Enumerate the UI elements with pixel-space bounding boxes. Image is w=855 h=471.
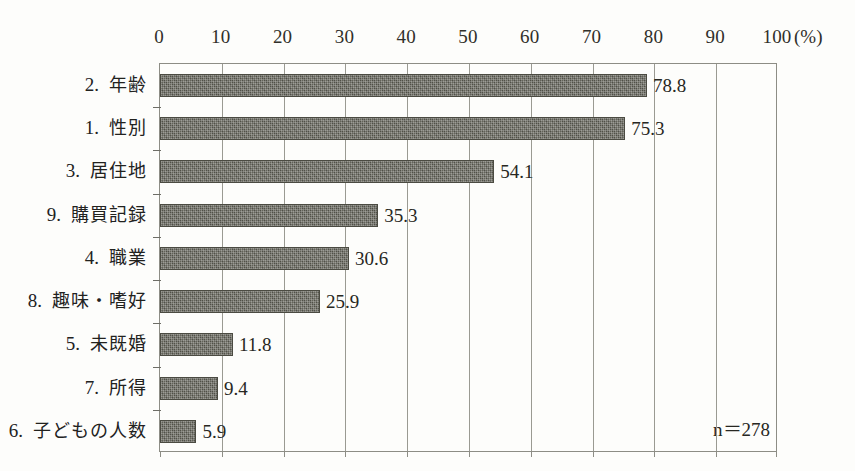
- category-text: 職業: [109, 247, 147, 268]
- x-axis-tick-20: 20: [273, 26, 292, 48]
- category-number: 5.: [66, 333, 80, 354]
- x-axis-tick-70: 70: [582, 26, 601, 48]
- category-text: 購買記録: [71, 204, 147, 225]
- bar-chart: 0102030405060708090100 (%) 2. 年齢1. 性別3. …: [0, 0, 855, 471]
- bar-row: 54.1: [160, 150, 776, 193]
- category-number: 7.: [85, 377, 99, 398]
- x-axis-tick-50: 50: [458, 26, 477, 48]
- category-text: 居住地: [90, 160, 147, 181]
- plot-area: n＝278 78.875.354.135.330.625.911.89.45.9: [159, 63, 777, 452]
- x-axis-tick-60: 60: [520, 26, 539, 48]
- category-label: 4. 職業: [85, 236, 147, 279]
- category-axis-tick-mark: [153, 150, 161, 151]
- bar: [160, 290, 320, 313]
- category-axis-tick-mark: [153, 410, 161, 411]
- category-number: 2.: [85, 74, 99, 95]
- x-axis-tick-labels: 0102030405060708090100: [0, 26, 855, 50]
- category-text: 性別: [109, 117, 147, 138]
- category-number: 6.: [9, 420, 23, 441]
- bar-value-label: 78.8: [647, 73, 686, 98]
- bar: [160, 333, 233, 356]
- category-label: 7. 所得: [85, 366, 147, 409]
- category-label: 1. 性別: [85, 106, 147, 149]
- category-axis-tick-mark: [153, 280, 161, 281]
- bar-value-label: 9.4: [218, 376, 248, 401]
- category-number: 3.: [66, 160, 80, 181]
- bar-value-label: 5.9: [196, 419, 226, 444]
- bar: [160, 74, 647, 97]
- category-label: 8. 趣味・嗜好: [28, 279, 147, 322]
- category-number: 9.: [47, 204, 61, 225]
- bar-value-label: 75.3: [625, 116, 664, 141]
- bar-value-label: 11.8: [233, 332, 272, 357]
- bar-row: 11.8: [160, 323, 776, 366]
- category-text: 所得: [109, 377, 147, 398]
- x-axis-tick-10: 10: [211, 26, 230, 48]
- x-axis-tick-40: 40: [396, 26, 415, 48]
- bar-row: 25.9: [160, 280, 776, 323]
- category-number: 8.: [28, 290, 42, 311]
- bar-value-label: 25.9: [320, 289, 359, 314]
- bar: [160, 204, 378, 227]
- category-number: 4.: [85, 247, 99, 268]
- x-axis-tick-90: 90: [705, 26, 724, 48]
- x-axis-tick-30: 30: [335, 26, 354, 48]
- category-label: 5. 未既婚: [66, 322, 147, 365]
- category-number: 1.: [85, 117, 99, 138]
- bar-row: 35.3: [160, 194, 776, 237]
- bar: [160, 117, 625, 140]
- bar-row: 75.3: [160, 107, 776, 150]
- x-axis-tick-100: 100: [762, 26, 791, 48]
- bar-row: 78.8: [160, 64, 776, 107]
- bar-value-label: 54.1: [494, 159, 533, 184]
- category-axis-tick-mark: [153, 367, 161, 368]
- bar: [160, 247, 349, 270]
- category-axis-tick-mark: [153, 237, 161, 238]
- bar-value-label: 30.6: [349, 246, 388, 271]
- category-axis-labels: 2. 年齢1. 性別3. 居住地9. 購買記録4. 職業8. 趣味・嗜好5. 未…: [0, 63, 152, 452]
- category-label: 3. 居住地: [66, 149, 147, 192]
- x-axis-tick-0: 0: [154, 26, 164, 48]
- x-axis-unit-label: (%): [794, 26, 822, 48]
- x-axis-tick-80: 80: [644, 26, 663, 48]
- bar: [160, 160, 494, 183]
- bar-value-label: 35.3: [378, 203, 417, 228]
- category-label: 6. 子どもの人数: [9, 409, 147, 452]
- category-text: 年齢: [109, 74, 147, 95]
- category-axis-tick-mark: [153, 194, 161, 195]
- category-label: 2. 年齢: [85, 63, 147, 106]
- category-text: 子どもの人数: [33, 420, 147, 441]
- category-axis-tick-mark: [153, 107, 161, 108]
- category-text: 趣味・嗜好: [52, 290, 147, 311]
- bar: [160, 377, 218, 400]
- bar-row: 9.4: [160, 367, 776, 410]
- bar: [160, 420, 196, 443]
- bar-row: 5.9: [160, 410, 776, 453]
- x-axis-tick-mark: [776, 451, 777, 457]
- bar-row: 30.6: [160, 237, 776, 280]
- category-axis-tick-mark: [153, 323, 161, 324]
- category-text: 未既婚: [90, 333, 147, 354]
- category-label: 9. 購買記録: [47, 193, 147, 236]
